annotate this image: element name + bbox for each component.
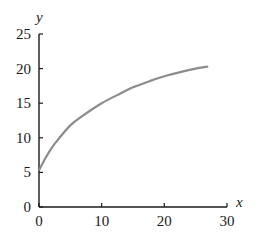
y-axis-label: y [34,9,43,25]
x-axis-label: x [235,194,243,210]
x-tick-label: 20 [157,213,172,229]
y-tick-label: 15 [16,95,31,111]
x-tick-label: 10 [94,213,109,229]
y-tick-label: 25 [16,26,31,42]
axes: 01020300510152025 [16,26,235,229]
x-tick-label: 0 [35,213,43,229]
y-tick-label: 5 [24,164,32,180]
x-tick-label: 30 [220,213,235,229]
data-curve [39,67,208,171]
y-tick-label: 0 [24,199,32,215]
chart: 01020300510152025 x y [0,0,260,245]
y-tick-label: 20 [16,61,31,77]
y-tick-label: 10 [16,130,31,146]
